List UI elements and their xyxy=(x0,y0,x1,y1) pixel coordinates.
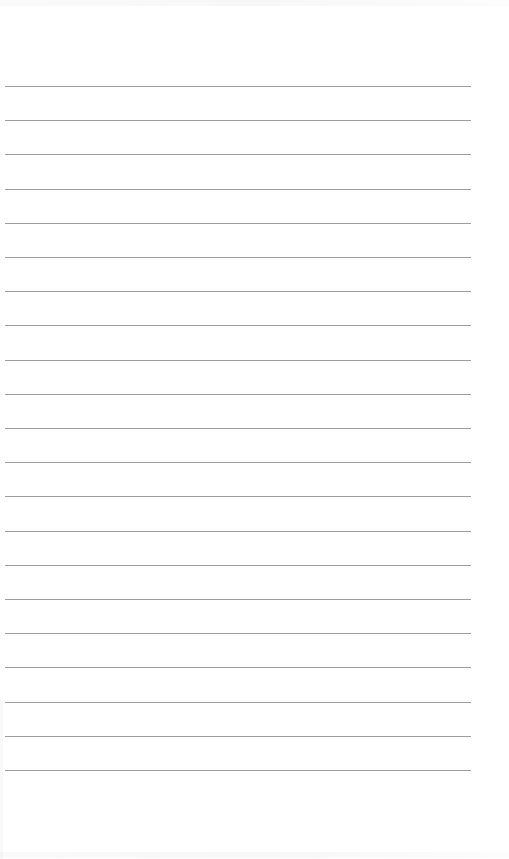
ruled-lines xyxy=(5,0,471,859)
ruled-line xyxy=(5,223,471,224)
ruled-line xyxy=(5,428,471,429)
ruled-line xyxy=(5,394,471,395)
ruled-line xyxy=(5,565,471,566)
ruled-line xyxy=(5,736,471,737)
notebook-page xyxy=(0,0,509,859)
ruled-line xyxy=(5,154,471,155)
ruled-line xyxy=(5,633,471,634)
ruled-line xyxy=(5,667,471,668)
ruled-line xyxy=(5,531,471,532)
ruled-line xyxy=(5,496,471,497)
ruled-line xyxy=(5,120,471,121)
ruled-line xyxy=(5,189,471,190)
ruled-line xyxy=(5,86,471,87)
ruled-line xyxy=(5,702,471,703)
ruled-line xyxy=(5,360,471,361)
ruled-line xyxy=(5,599,471,600)
ruled-line xyxy=(5,770,471,771)
page-edge-shadow xyxy=(0,700,3,859)
ruled-line xyxy=(5,462,471,463)
ruled-line xyxy=(5,291,471,292)
ruled-line xyxy=(5,325,471,326)
show-through-text-bottom xyxy=(0,852,509,858)
ruled-line xyxy=(5,257,471,258)
